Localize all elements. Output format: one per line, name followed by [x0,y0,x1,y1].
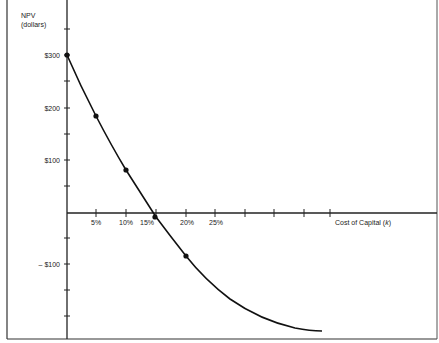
y-tick-label-200: $200 [44,105,60,112]
x-tick-label-25: 25% [209,219,223,226]
data-point-irr [152,214,157,219]
npv-curve-line [67,55,322,331]
y-tick-label-100: $100 [44,157,60,164]
y-axis [64,0,70,339]
data-point-10pct [123,167,128,172]
y-tick-label-neg100: – $100 [39,261,61,268]
npv-curve [67,55,186,297]
data-point-0pct [64,52,69,57]
npv-profile-chart: NPV (dollars) $300 $200 $100 – $100 5% 1… [0,0,439,343]
x-tick-label-5: 5% [91,219,101,226]
data-point-5pct [93,113,98,118]
chart-frame [7,0,437,339]
x-axis [67,209,437,217]
y-axis-title-dollars: (dollars) [21,21,46,29]
x-tick-label-20: 20% [180,219,194,226]
y-axis-title-npv: NPV [21,12,36,19]
data-point-20pct [183,253,188,258]
x-tick-label-15: 15% [140,219,154,226]
x-axis-title: Cost of Capital (k) [335,219,391,227]
data-points [64,52,188,258]
y-tick-label-300: $300 [44,52,60,59]
x-tick-label-10: 10% [119,219,133,226]
